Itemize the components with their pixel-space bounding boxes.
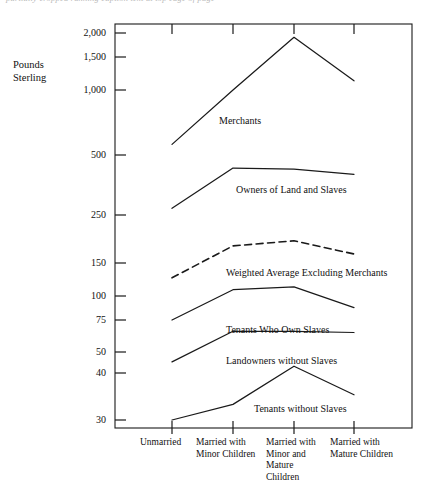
plot-area xyxy=(0,0,429,485)
series-label-tenants-without-slaves: Tenants without Slaves xyxy=(254,404,347,414)
series-label-tenants-who-own-slaves: Tenants Who Own Slaves xyxy=(226,325,329,335)
series-label-landowners-without-slaves: Landowners without Slaves xyxy=(226,356,337,366)
x-tick-marks-top xyxy=(172,24,354,34)
plot-frame xyxy=(115,24,412,428)
series-line-tenants-who-own-slaves xyxy=(172,287,354,320)
series-label-owners-of-land-and-slaves: Owners of Land and Slaves xyxy=(236,185,347,195)
series-line-merchants xyxy=(172,37,354,144)
x-tick-label-married-with-minor-children: Married with Minor Children xyxy=(196,437,266,460)
x-tick-label-married-with-mature-children: Married with Mature Children xyxy=(330,437,406,460)
y-tick-marks xyxy=(115,33,126,420)
series-label-merchants: Merchants xyxy=(219,116,261,126)
figure-root: partially cropped running caption text a… xyxy=(0,0,429,485)
series-label-weighted-average-excluding-merchants: Weighted Average Excluding Merchants xyxy=(226,268,387,278)
x-tick-label-married-with-minor-and-mature-children: Married with Minor and Mature Children xyxy=(266,437,328,483)
